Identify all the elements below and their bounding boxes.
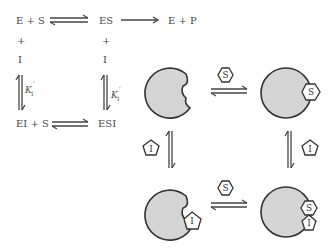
label-esi-complex: ESI	[98, 118, 116, 129]
svg-text:I: I	[31, 90, 34, 97]
svg-text:': '	[119, 85, 121, 92]
svg-text:I: I	[149, 144, 153, 154]
inhibitor-pentagon-right: I	[302, 140, 318, 155]
equilibrium-arrow-esi	[101, 75, 110, 110]
equilibrium-arrow-es	[50, 15, 88, 25]
equilibrium-arrow-bottom	[211, 200, 247, 210]
dissociation-constant-left: K I '	[24, 80, 35, 97]
equilibrium-arrow-right-vertical	[285, 131, 294, 168]
inhibitor-left: I	[18, 54, 22, 65]
equilibrium-arrow-left-vertical	[166, 131, 175, 168]
equilibrium-arrow-ei	[16, 75, 25, 110]
label-es-complex: ES	[99, 15, 113, 26]
label-enzyme-plus-substrate: E + S	[16, 15, 45, 26]
label-ei-plus-substrate: EI + S	[16, 118, 49, 129]
forward-arrow-product	[121, 17, 158, 23]
plus-sign-mid: +	[102, 35, 110, 46]
equilibrium-arrow-top	[211, 86, 247, 96]
substrate-hexagon-top: S	[218, 68, 233, 82]
inhibitor-mid: I	[103, 54, 107, 65]
svg-text:': '	[33, 80, 35, 87]
dissociation-constant-right: K I '	[110, 85, 121, 102]
svg-text:I: I	[307, 218, 311, 228]
label-enzyme-plus-product: E + P	[168, 15, 197, 26]
svg-text:S: S	[306, 203, 312, 213]
inhibition-diagram: E + S ES E + P + + I I K I ' K I ' EI	[0, 0, 336, 249]
svg-text:I: I	[117, 95, 120, 102]
enzyme-inhibitor-complex: I	[145, 190, 201, 240]
enzyme-substrate-complex: S	[261, 68, 320, 118]
svg-text:I: I	[190, 216, 194, 226]
equilibrium-arrow-ei-esi	[52, 119, 88, 129]
enzyme-substrate-inhibitor-complex: S I	[261, 187, 317, 237]
inhibitor-pentagon-left: I	[143, 140, 159, 155]
plus-sign-left: +	[17, 35, 25, 46]
svg-text:I: I	[308, 144, 312, 154]
svg-text:S: S	[308, 87, 314, 97]
svg-text:S: S	[222, 183, 228, 193]
svg-text:S: S	[222, 70, 228, 80]
substrate-hexagon-bottom: S	[218, 181, 233, 195]
free-enzyme	[145, 68, 190, 118]
